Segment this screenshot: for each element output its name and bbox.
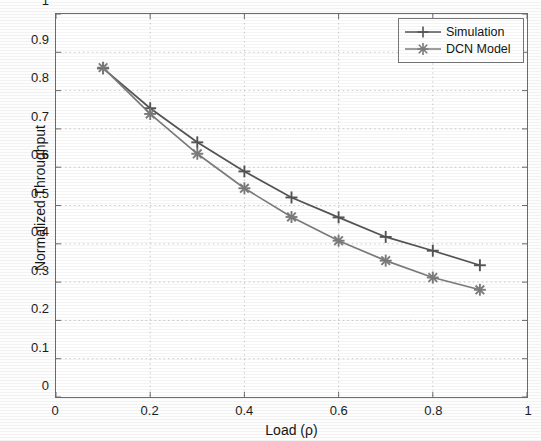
legend-label-simulation: Simulation — [446, 25, 504, 39]
x-tick-label: 0 — [51, 404, 58, 417]
legend-entry-simulation: Simulation — [405, 23, 517, 40]
y-axis-title: Normalized Throughput — [32, 68, 48, 328]
y-tick-label: 1 — [42, 0, 49, 7]
x-axis-title: Load (ρ) — [55, 422, 528, 438]
data-series-layer — [97, 62, 486, 296]
x-tick-label: 0.2 — [141, 404, 159, 417]
series-dcn-model — [97, 62, 486, 296]
asterisk-marker-icon — [333, 235, 345, 247]
x-tick-label: 1 — [524, 404, 531, 417]
series-line — [103, 68, 480, 290]
plus-marker-icon — [427, 245, 439, 257]
asterisk-marker-icon — [238, 182, 250, 194]
plot-area — [55, 13, 528, 398]
x-tick-label: 0.4 — [235, 404, 253, 417]
asterisk-marker-icon — [97, 62, 109, 74]
asterisk-marker-icon — [427, 272, 439, 284]
plus-marker-icon — [474, 259, 486, 271]
x-tick-label: 0.6 — [330, 404, 348, 417]
asterisk-marker-icon — [380, 255, 392, 267]
chart-legend: Simulation DCN Model — [398, 18, 524, 63]
plus-marker-icon — [286, 191, 298, 203]
x-axis-tick-labels: 00.20.40.60.81 — [55, 404, 528, 422]
y-tick-label: 0.9 — [31, 32, 49, 45]
asterisk-marker-icon — [191, 148, 203, 160]
gridlines — [56, 14, 527, 397]
legend-label-dcn-model: DCN Model — [446, 42, 511, 56]
plus-marker-icon — [191, 136, 203, 148]
plus-marker-icon — [380, 231, 392, 243]
y-tick-label: 0.1 — [31, 340, 49, 353]
asterisk-marker-icon — [144, 108, 156, 120]
legend-entry-dcn-model: DCN Model — [405, 40, 517, 57]
plus-marker-icon — [333, 211, 345, 223]
asterisk-marker-icon — [405, 42, 441, 56]
asterisk-marker-icon — [474, 284, 486, 296]
chart-plot-svg — [56, 14, 527, 397]
chart-figure: 00.10.20.30.40.50.60.70.80.91 Normalized… — [0, 0, 541, 441]
asterisk-marker-icon — [286, 211, 298, 223]
x-tick-label: 0.8 — [424, 404, 442, 417]
plus-marker-icon — [405, 25, 441, 39]
y-tick-label: 0 — [42, 379, 49, 392]
